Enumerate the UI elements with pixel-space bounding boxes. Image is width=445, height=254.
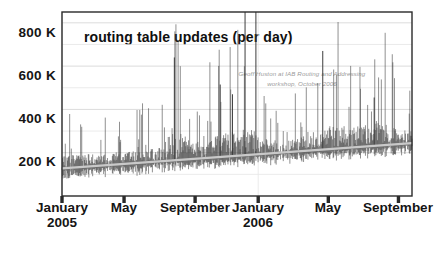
chart-container: 800 K 600 K 400 K 200 K routing table up… — [0, 0, 445, 254]
data-series-spikes — [62, 12, 412, 179]
x-axis-ticks — [62, 196, 398, 203]
plot-area — [0, 0, 445, 254]
